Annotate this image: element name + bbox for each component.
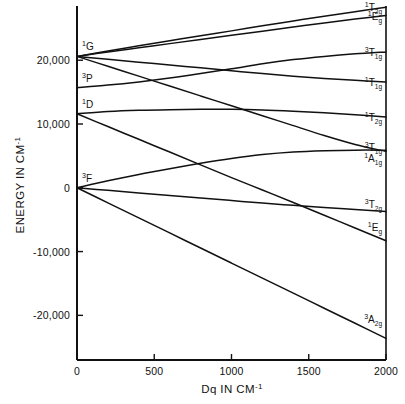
curve-group [77,7,386,338]
y-tick-label: 0 [64,182,70,194]
free-ion-term-1D: 1D [82,98,93,110]
free-ion-term-3P: 3P [82,72,93,84]
plot-canvas: 20,00010,0000-10,000-20,0000500100015002… [0,0,405,404]
energy-curve [77,188,386,339]
axis-frame [77,6,386,360]
y-axis-title: ENERGY IN CM-1 [13,136,26,233]
state-label-3A2g: 3A2g [364,313,382,328]
label-group: 1G3P1D3F1T2g1Eg3T1g1T1g1T2g3T1g1A1g3T2g1… [82,1,382,328]
energy-level-diagram: 20,00010,0000-10,000-20,0000500100015002… [0,0,405,404]
x-tick-label: 500 [145,365,163,377]
free-ion-term-3F: 3F [82,172,92,184]
energy-curve [77,16,386,57]
y-tick-label: -10,000 [33,246,70,258]
state-label-1T1g: 1T1g [365,76,383,91]
x-axis-title: Dq IN CM-1 [201,382,263,395]
y-tick-label: 10,000 [37,118,70,130]
energy-curve [77,109,386,117]
free-ion-term-1G: 1G [82,40,94,52]
energy-curve [77,7,386,56]
x-tick-label: 1500 [297,365,321,377]
y-tick-label: -20,000 [33,309,70,321]
x-tick-label: 1000 [219,365,243,377]
energy-curve [77,188,386,212]
energy-curve [77,52,386,88]
x-tick-label: 0 [74,365,80,377]
energy-curve [77,150,386,188]
state-label-1T2g: 1T2g [365,111,383,126]
x-tick-label: 2000 [374,365,398,377]
y-tick-label: 20,000 [37,54,70,66]
